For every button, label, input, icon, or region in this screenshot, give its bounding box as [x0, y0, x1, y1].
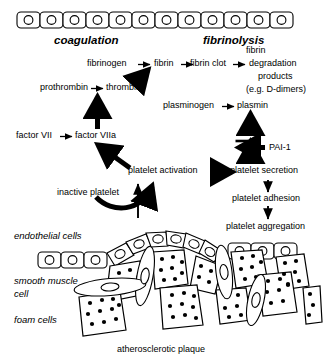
node-fibrinogen: fibrinogen [87, 59, 127, 68]
node-fibrin-clot: fibrin clot [190, 59, 226, 68]
label-smooth-muscle-line2: cell [14, 289, 28, 299]
node-degradation-line4: (e.g. D-dimers) [246, 85, 306, 94]
top-endothelium-row [17, 12, 293, 28]
node-plasmin: plasmin [237, 101, 268, 110]
node-platelet-adhesion: platelet adhesion [232, 194, 300, 203]
node-plasminogen: plasminogen [163, 101, 214, 110]
heading-coagulation: coagulation [54, 34, 119, 46]
node-factor-vii: factor VII [16, 131, 52, 140]
node-platelet-aggregation: platelet aggregation [226, 222, 305, 231]
arrow-plateletactivation-to-factorviia [98, 145, 130, 168]
node-pai1: PAI-1 [269, 143, 291, 152]
node-fibrin: fibrin [154, 59, 174, 68]
lower-endothelium-left [38, 252, 107, 268]
label-endothelial-cells: endothelial cells [14, 231, 82, 241]
node-degradation-line2: degradation [249, 59, 297, 68]
node-tpa: tPA [239, 143, 253, 152]
node-degradation-line1: fibrin [246, 46, 324, 55]
node-degradation-line3: products [258, 72, 293, 81]
node-prothrombin: prothrombin [40, 83, 88, 92]
node-inactive-platelet: inactive platelet [57, 188, 119, 197]
node-factor-viia: factor VIIa [75, 131, 116, 140]
diagram-canvas: coagulation fibrinolysis fibrinogen fibr… [0, 0, 324, 361]
node-thrombin: thrombin [106, 83, 141, 92]
label-foam-cells: foam cells [14, 315, 57, 325]
node-platelet-secretion: platelet secretion [230, 166, 298, 175]
node-platelet-activation: platelet activation [128, 166, 198, 175]
label-smooth-muscle-line1: smooth muscle [14, 276, 78, 286]
label-atherosclerotic-plaque: atherosclerotic plaque [117, 345, 205, 354]
